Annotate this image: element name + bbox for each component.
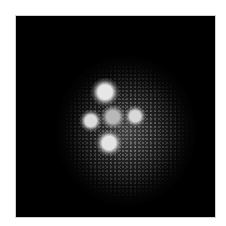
image-frame <box>15 15 216 218</box>
light-spot-top <box>91 78 120 107</box>
light-spot-bottom <box>96 130 123 157</box>
noise-texture <box>61 61 191 201</box>
light-spot-right <box>124 105 146 127</box>
